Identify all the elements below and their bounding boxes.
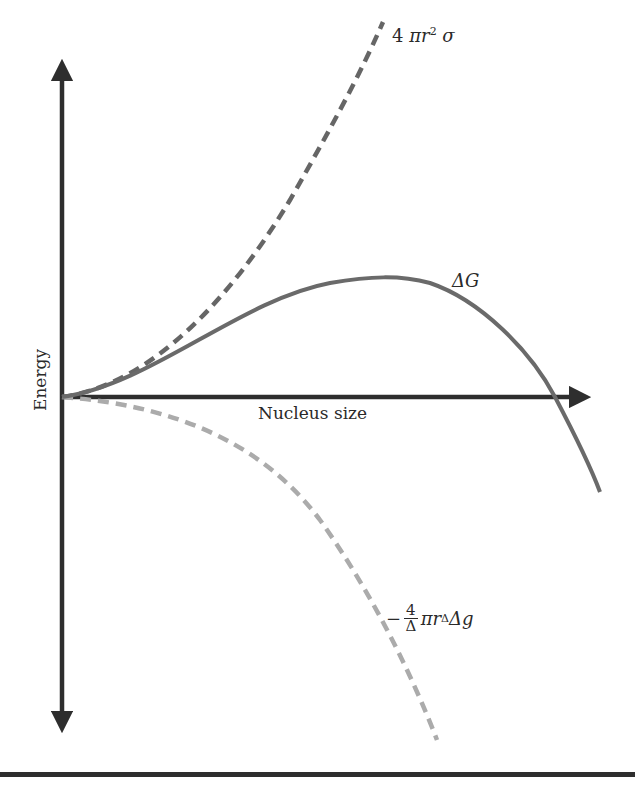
volume-label-suffix: Δg xyxy=(449,608,474,629)
volume-label-exponent: Δ xyxy=(441,612,449,625)
volume-label-minus: − xyxy=(386,608,401,629)
x-axis-label: Nucleus size xyxy=(258,403,367,423)
bottom-rule-divider xyxy=(0,772,635,777)
surface-energy-label: 4 πr2 σ xyxy=(392,25,455,46)
delta-g-label: ΔG xyxy=(452,270,479,291)
y-axis-label: Energy xyxy=(30,349,50,411)
volume-energy-label: − 4 Δ πrΔΔg xyxy=(386,603,474,634)
delta-g-text: ΔG xyxy=(452,270,479,291)
volume-label-fraction: 4 Δ xyxy=(404,603,418,634)
surface-label-exponent: 2 xyxy=(430,25,437,38)
surface-label-prefix: 4 xyxy=(392,25,409,46)
volume-energy-curve xyxy=(62,397,437,740)
volume-label-pi-r: πr xyxy=(421,608,441,629)
nucleation-energy-diagram xyxy=(0,0,635,789)
fraction-denominator: Δ xyxy=(405,619,416,634)
delta-g-curve xyxy=(62,277,600,492)
surface-energy-curve xyxy=(62,22,383,397)
surface-label-suffix: σ xyxy=(437,25,455,46)
surface-label-pi-r: πr xyxy=(409,25,429,46)
